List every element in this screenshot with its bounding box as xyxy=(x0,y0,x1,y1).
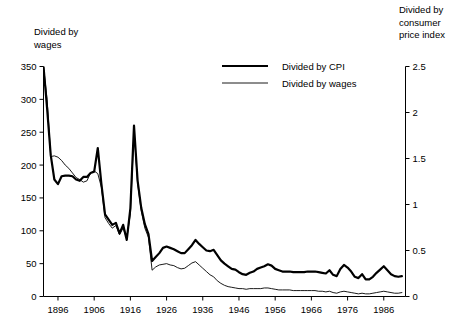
x-tick-label: 1926 xyxy=(156,304,177,315)
tick-marks-group xyxy=(40,67,410,301)
chart-container: Divided by wages Divided by consumer pri… xyxy=(0,0,449,334)
y-tick-label-right: 0 xyxy=(413,291,418,302)
x-tick-label: 1916 xyxy=(120,304,141,315)
data-series-group xyxy=(44,67,402,294)
x-tick-label: 1976 xyxy=(337,304,358,315)
x-tick-label: 1986 xyxy=(373,304,394,315)
y-tick-label-left: 200 xyxy=(21,160,37,171)
y-tick-label-right: 2.5 xyxy=(413,61,426,72)
legend-label: Divided by wages xyxy=(282,78,357,89)
right-axis-title: Divided by consumer price index xyxy=(399,4,445,42)
y-tick-label-left: 250 xyxy=(21,127,37,138)
chart-legend: Divided by CPIDivided by wages xyxy=(222,61,357,89)
y-tick-label-right: 1.5 xyxy=(413,153,426,164)
y-tick-label-left: 100 xyxy=(21,225,37,236)
legend-label: Divided by CPI xyxy=(282,61,345,72)
x-tick-label: 1966 xyxy=(301,304,322,315)
y-tick-label-left: 350 xyxy=(21,61,37,72)
x-tick-label: 1906 xyxy=(84,304,105,315)
x-tick-label: 1936 xyxy=(192,304,213,315)
x-tick-label: 1946 xyxy=(228,304,249,315)
y-tick-label-right: 1 xyxy=(413,199,418,210)
y-tick-label-right: 0.5 xyxy=(413,245,426,256)
axes-group xyxy=(44,67,406,297)
y-tick-label-left: 150 xyxy=(21,192,37,203)
y-tick-label-left: 0 xyxy=(31,291,36,302)
y-tick-label-left: 300 xyxy=(21,94,37,105)
x-tick-label: 1956 xyxy=(265,304,286,315)
y-tick-label-right: 2 xyxy=(413,107,418,118)
series-line-divided-by-wages xyxy=(44,67,402,294)
x-tick-label: 1896 xyxy=(47,304,68,315)
left-axis-title: Divided by wages xyxy=(34,26,78,51)
y-tick-label-left: 50 xyxy=(26,258,37,269)
